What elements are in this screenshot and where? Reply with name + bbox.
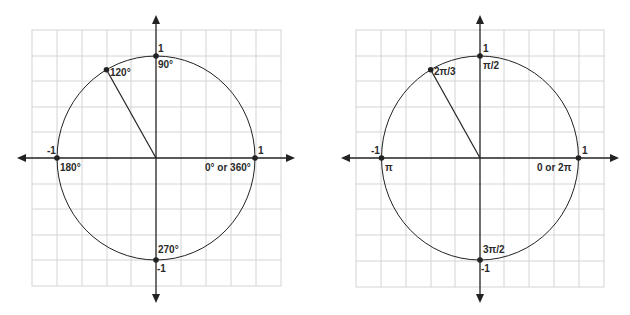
point-0 (576, 155, 582, 161)
angle-label-90: 90° (158, 60, 173, 70)
unit-circle-radians-panel: 1 π/2 2π/3 -1 π 1 0 or 2π 3π/2 -1 (315, 0, 630, 315)
axes (346, 20, 614, 298)
axis-label-bottom: -1 (481, 264, 490, 274)
point-pi (379, 155, 385, 161)
angle-label-2pi-3: 2π/3 (434, 67, 456, 77)
arrow-left-icon (17, 154, 26, 162)
axis-label-right: 1 (258, 146, 264, 156)
axes (22, 20, 290, 298)
point-0 (252, 155, 258, 161)
point-90 (153, 53, 159, 59)
arrow-down-icon (476, 294, 484, 303)
angle-label-180: 180° (60, 163, 81, 173)
arrow-right-icon (610, 154, 619, 162)
point-2pi-3 (428, 67, 434, 73)
arrow-right-icon (286, 154, 295, 162)
axis-label-left: -1 (47, 146, 56, 156)
axis-label-top: 1 (483, 44, 489, 54)
angle-label-120: 120° (110, 68, 131, 78)
angle-label-3pi-2: 3π/2 (483, 245, 505, 255)
axis-label-right: 1 (582, 146, 588, 156)
angle-label-0: 0° or 360° (205, 163, 251, 173)
angle-label-270: 270° (158, 245, 179, 255)
arrow-left-icon (341, 154, 350, 162)
angle-label-pi-2: π/2 (483, 61, 499, 71)
unit-circle-degrees-panel: 1 90° 120° -1 180° 1 0° or 360° 270° -1 (0, 0, 315, 315)
angle-label-0-or-2pi: 0 or 2π (537, 163, 571, 173)
angle-label-pi: π (385, 163, 393, 173)
point-3pi-2 (477, 257, 483, 263)
unit-circle-radians-graphic (315, 0, 630, 315)
axis-label-bottom: -1 (157, 264, 166, 274)
point-180 (54, 155, 60, 161)
arrow-up-icon (152, 15, 160, 24)
axis-label-top: 1 (158, 44, 164, 54)
point-120 (104, 67, 110, 73)
arrow-down-icon (152, 294, 160, 303)
arrow-up-icon (476, 15, 484, 24)
point-270 (153, 257, 159, 263)
axis-label-left: -1 (371, 146, 380, 156)
point-pi-2 (477, 53, 483, 59)
